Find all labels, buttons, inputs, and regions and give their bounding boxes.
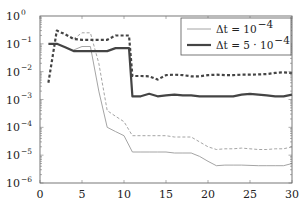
y-tick-exponent: −2 [21, 63, 32, 72]
y-tick-exponent: −4 [21, 119, 32, 128]
series-line-0 [74, 47, 292, 166]
chart: 05101520253010010−110−210−310−410−510−6 … [0, 0, 299, 206]
y-tick-label: 10 [6, 10, 20, 23]
y-tick-label: 10 [6, 149, 20, 162]
y-tick-exponent: −1 [21, 35, 32, 44]
legend-label-0: Δt = 10 [216, 23, 257, 35]
y-tick-label: 10 [6, 177, 20, 190]
legend-label-exponent-1: −4 [274, 34, 290, 46]
y-tick-exponent: −3 [21, 91, 32, 100]
y-tick-exponent: −6 [21, 175, 32, 184]
y-tick-label: 10 [6, 66, 20, 79]
legend-label-1: Δt = 5 · 10 [216, 39, 273, 51]
x-tick-label: 20 [201, 188, 215, 201]
y-tick-label: 10 [6, 38, 20, 51]
x-tick-label: 25 [243, 188, 257, 201]
legend-label-exponent-0: −4 [258, 18, 274, 30]
y-tick-label: 10 [6, 121, 20, 134]
x-tick-label: 30 [285, 188, 299, 201]
legend: Δt = 10−4Δt = 5 · 10−4 [181, 18, 291, 55]
x-tick-label: 10 [117, 188, 131, 201]
y-tick-exponent: −5 [21, 147, 32, 156]
x-tick-label: 15 [159, 188, 173, 201]
y-tick-exponent: 0 [21, 8, 26, 17]
y-tick-label: 10 [6, 94, 20, 107]
x-tick-label: 5 [79, 188, 86, 201]
x-tick-label: 0 [37, 188, 44, 201]
